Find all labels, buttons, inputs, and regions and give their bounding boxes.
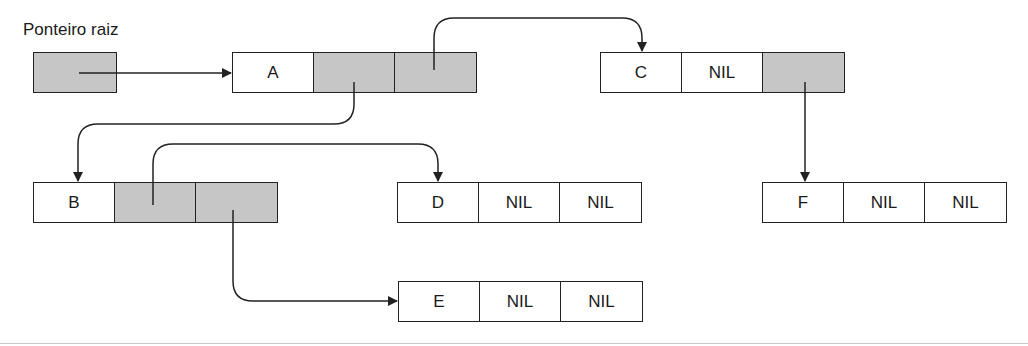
arrow-a-to-c	[434, 18, 642, 70]
pointer-arrows	[0, 0, 1028, 346]
bottom-divider	[0, 343, 1028, 344]
arrow-b-to-e	[233, 210, 397, 301]
arrow-a-to-b	[78, 82, 354, 181]
arrow-b-to-d	[153, 144, 438, 205]
